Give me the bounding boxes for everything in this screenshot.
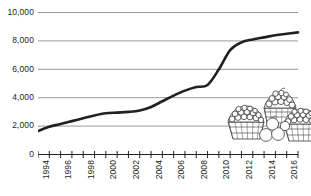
y-axis: 10,000 8,000 6,000 4,000 2,000 0 xyxy=(0,0,34,196)
x-tick-label-1998: 1998 xyxy=(87,160,96,179)
y-tick-label-4000: 4,000 xyxy=(0,93,34,102)
line-chart: 10,000 8,000 6,000 4,000 2,000 0 xyxy=(0,0,311,196)
x-tick-label-1994: 1994 xyxy=(42,160,51,179)
x-axis: 1994199619982000200220042006200820102012… xyxy=(38,160,303,196)
x-tick-label-2004: 2004 xyxy=(155,160,164,179)
x-tick-label-1996: 1996 xyxy=(64,160,73,179)
y-tick-label-2000: 2,000 xyxy=(0,121,34,130)
y-tick-label-6000: 6,000 xyxy=(0,65,34,74)
gridlines xyxy=(38,13,298,127)
y-tick-label-8000: 8,000 xyxy=(0,36,34,45)
y-tick-label-10000: 10,000 xyxy=(0,8,34,17)
x-tick-label-2006: 2006 xyxy=(177,160,186,179)
x-tick-label-2008: 2008 xyxy=(200,160,209,179)
x-tick-label-2010: 2010 xyxy=(222,160,231,179)
x-tick-label-2002: 2002 xyxy=(132,160,141,179)
x-tick-label-2016: 2016 xyxy=(290,160,299,179)
x-tick-label-2000: 2000 xyxy=(109,160,118,179)
x-tick-label-2014: 2014 xyxy=(268,160,277,179)
y-tick-label-0: 0 xyxy=(0,150,34,159)
data-line-series xyxy=(38,32,298,131)
x-tick-label-2012: 2012 xyxy=(245,160,254,179)
